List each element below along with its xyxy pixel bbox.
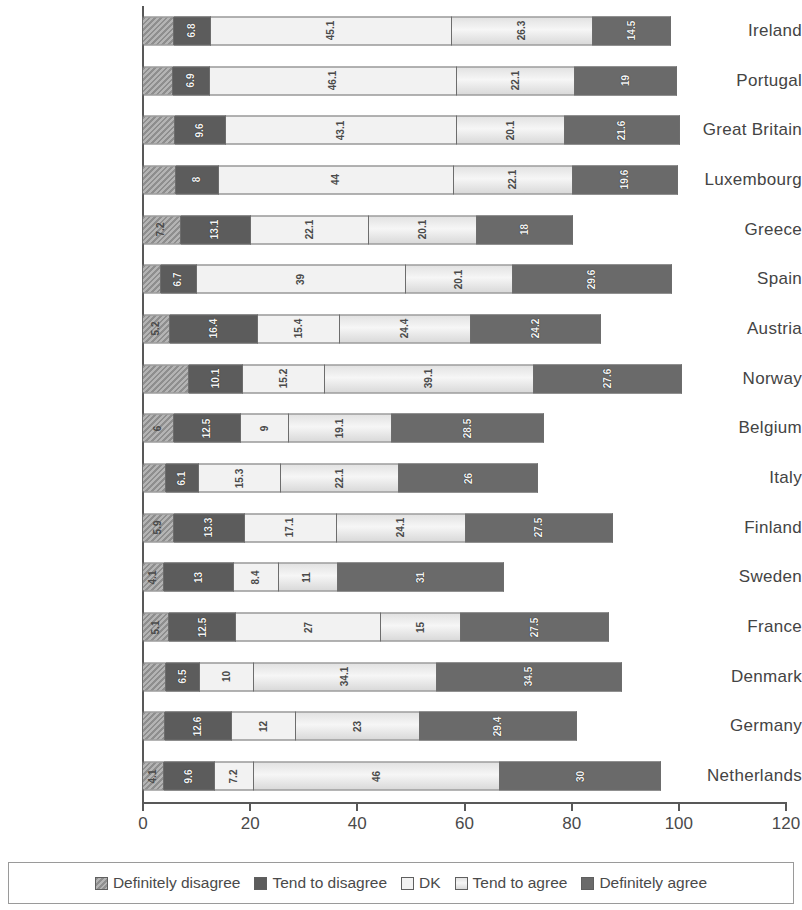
bar-segment-tend-to-agree: 22.1 <box>454 165 572 194</box>
x-tick <box>785 802 787 811</box>
legend-item-definitely-agree: Definitely agree <box>581 874 707 892</box>
bar-segment-definitely-disagree <box>142 66 173 95</box>
category-label-austria: Austria <box>674 319 802 339</box>
bar-segment-definitely-agree: 18 <box>477 215 573 244</box>
chart-row: Norway10.115.239.127.6 <box>0 354 802 404</box>
bar-segment-definitely-disagree: 5.2 <box>142 314 170 343</box>
bar-segment-value-label: 17.1 <box>285 518 295 537</box>
bar-segment-value-label: 31 <box>415 572 425 583</box>
bar-segment-value-label: 43.1 <box>336 120 346 139</box>
bar-segment-value-label: 7.2 <box>229 769 239 783</box>
bar-segment-value-label: 6.9 <box>186 74 196 88</box>
legend-item-dk: DK <box>401 874 441 892</box>
category-label-greece: Greece <box>674 220 802 240</box>
legend-label-tend-to-disagree: Tend to disagree <box>272 874 387 892</box>
bar-segment-dk: 15.3 <box>199 464 281 493</box>
bar-segment-value-label: 24.4 <box>400 319 410 338</box>
legend-label-definitely-disagree: Definitely disagree <box>113 874 241 892</box>
stacked-bar: 9.643.120.121.6 <box>142 116 680 145</box>
bar-segment-value-label: 16.4 <box>208 319 218 338</box>
bar-segment-tend-to-agree: 22.1 <box>281 464 399 493</box>
bar-segment-value-label: 12 <box>259 721 269 732</box>
stacked-bar: 12.6122329.4 <box>142 712 577 741</box>
bar-segment-value-label: 9.6 <box>195 123 205 137</box>
bar-segment-value-label: 20.1 <box>418 220 428 239</box>
bar-segment-tend-to-agree: 20.1 <box>369 215 477 244</box>
bar-segment-definitely-disagree: 4.1 <box>142 762 164 791</box>
bar-segment-definitely-disagree: 6 <box>142 414 174 443</box>
category-label-luxembourg: Luxembourg <box>674 170 802 190</box>
bar-segment-value-label: 12.6 <box>193 717 203 736</box>
bar-segment-tend-to-disagree: 16.4 <box>170 314 258 343</box>
bar-segment-definitely-agree: 27.5 <box>466 513 613 542</box>
bar-segment-tend-to-disagree: 6.1 <box>166 464 199 493</box>
category-label-spain: Spain <box>674 269 802 289</box>
bar-segment-value-label: 12.5 <box>202 419 212 438</box>
category-label-great-britain: Great Britain <box>674 120 802 140</box>
bar-segment-value-label: 22.1 <box>508 170 518 189</box>
bar-segment-dk: 27 <box>236 613 381 642</box>
stacked-bar: 6.845.126.314.5 <box>142 16 671 45</box>
bar-segment-tend-to-agree: 20.1 <box>406 265 514 294</box>
bar-segment-value-label: 27.5 <box>530 617 540 636</box>
bar-segment-value-label: 20.1 <box>454 270 464 289</box>
bar-segment-definitely-disagree: 7.2 <box>142 215 181 244</box>
legend-swatch-icon-dk <box>401 877 414 890</box>
bar-segment-value-label: 44 <box>331 174 341 185</box>
bar-segment-definitely-agree: 27.5 <box>461 613 608 642</box>
bar-segment-value-label: 30 <box>575 771 585 782</box>
stacked-bar: 4.19.67.24630 <box>142 762 661 791</box>
stacked-bar-chart: Ireland6.845.126.314.5Portugal6.946.122.… <box>0 0 802 910</box>
chart-row: Italy6.115.322.126 <box>0 453 802 503</box>
bar-segment-value-label: 8 <box>192 177 202 183</box>
bar-segment-value-label: 13 <box>193 572 203 583</box>
bar-segment-tend-to-agree: 20.1 <box>457 116 565 145</box>
bar-segment-value-label: 24.2 <box>530 319 540 338</box>
x-tick-label: 60 <box>455 814 474 834</box>
stacked-bar: 84422.119.6 <box>142 165 678 194</box>
bar-segment-definitely-agree: 29.6 <box>513 265 672 294</box>
chart-row: Ireland6.845.126.314.5 <box>0 6 802 56</box>
category-label-italy: Italy <box>674 468 802 488</box>
bar-segment-value-label: 22.1 <box>334 468 344 487</box>
bar-segment-tend-to-disagree: 6.8 <box>174 16 210 45</box>
bar-segment-dk: 39 <box>197 265 406 294</box>
bar-segment-tend-to-agree: 24.4 <box>340 314 471 343</box>
bar-segment-value-label: 11 <box>303 572 313 583</box>
bar-segment-value-label: 12.5 <box>197 617 207 636</box>
stacked-bar: 6.73920.129.6 <box>142 265 672 294</box>
bar-segment-value-label: 23 <box>352 721 362 732</box>
bar-segment-value-label: 13.1 <box>210 220 220 239</box>
category-label-ireland: Ireland <box>674 21 802 41</box>
bar-segment-value-label: 34.5 <box>524 667 534 686</box>
legend-label-dk: DK <box>419 874 441 892</box>
x-tick <box>571 802 573 811</box>
bar-segment-dk: 44 <box>219 165 455 194</box>
bar-segment-value-label: 26.3 <box>517 21 527 40</box>
bar-segment-definitely-disagree <box>142 662 166 691</box>
x-tick-label: 80 <box>562 814 581 834</box>
stacked-bar: 10.115.239.127.6 <box>142 364 682 393</box>
bar-segment-tend-to-disagree: 9.6 <box>175 116 226 145</box>
bar-segment-tend-to-agree: 19.1 <box>289 414 391 443</box>
chart-row: Denmark6.51034.134.5 <box>0 652 802 702</box>
legend-item-tend-to-agree: Tend to agree <box>455 874 568 892</box>
bar-segment-value-label: 7.2 <box>156 223 166 237</box>
legend-item-definitely-disagree: Definitely disagree <box>95 874 241 892</box>
bar-segment-value-label: 6.1 <box>177 471 187 485</box>
chart-row: Portugal6.946.122.119 <box>0 56 802 106</box>
legend-swatch-icon-definitely-disagree <box>95 877 108 890</box>
x-tick <box>464 802 466 811</box>
bar-segment-value-label: 9.6 <box>184 769 194 783</box>
bar-segment-dk: 17.1 <box>245 513 337 542</box>
bar-segment-value-label: 27.5 <box>534 518 544 537</box>
legend-label-definitely-agree: Definitely agree <box>599 874 707 892</box>
legend-item-tend-to-disagree: Tend to disagree <box>254 874 387 892</box>
bar-segment-dk: 43.1 <box>226 116 457 145</box>
bar-segment-value-label: 6 <box>153 426 163 432</box>
bar-segment-value-label: 6.5 <box>177 670 187 684</box>
bar-segment-definitely-disagree <box>142 464 166 493</box>
bar-segment-tend-to-disagree: 8 <box>176 165 219 194</box>
bar-segment-tend-to-disagree: 13.3 <box>174 513 245 542</box>
bar-segment-value-label: 4.1 <box>148 570 158 584</box>
